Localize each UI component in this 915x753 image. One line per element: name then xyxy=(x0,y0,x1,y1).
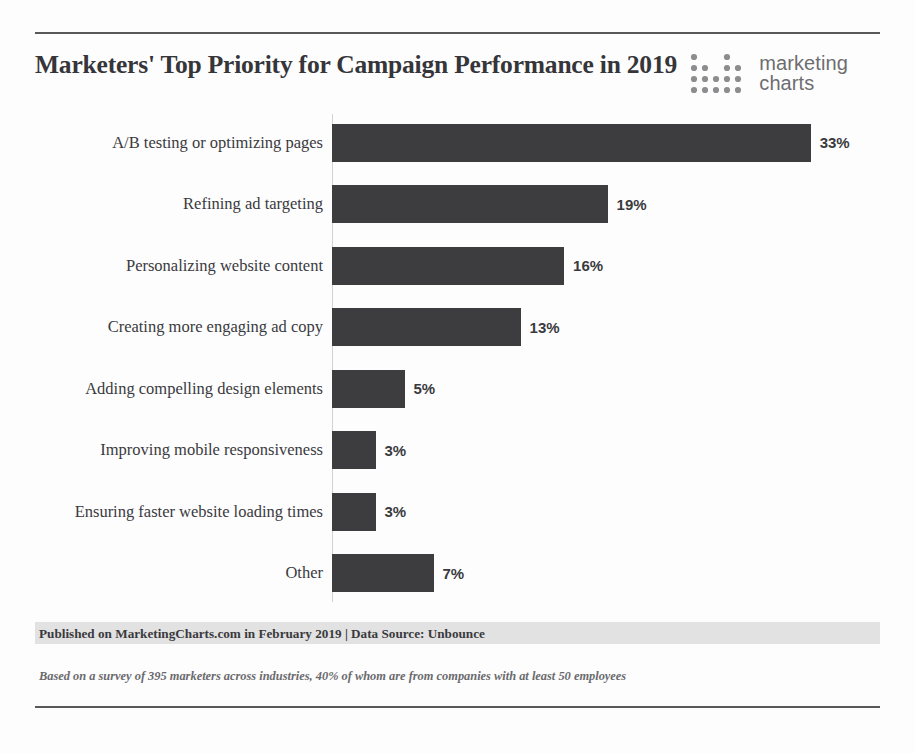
chart-row: Improving mobile responsiveness3% xyxy=(35,431,880,469)
bottom-divider xyxy=(35,706,880,708)
bar xyxy=(332,124,811,162)
category-label: Creating more engaging ad copy xyxy=(35,319,332,336)
attribution-text: Published on MarketingCharts.com in Febr… xyxy=(39,625,485,642)
bar-track: 7% xyxy=(332,554,880,592)
bar-track: 19% xyxy=(332,185,880,223)
chart-row: Other7% xyxy=(35,554,880,592)
category-label: Improving mobile responsiveness xyxy=(35,442,332,459)
bar-value-label: 5% xyxy=(405,381,436,396)
logo-line-1: marketing xyxy=(759,53,848,73)
bar-value-label: 3% xyxy=(376,443,407,458)
bar xyxy=(332,493,376,531)
bar-value-label: 3% xyxy=(376,504,407,519)
bar-track: 13% xyxy=(332,308,880,346)
bar xyxy=(332,554,434,592)
chart-row: Ensuring faster website loading times3% xyxy=(35,493,880,531)
bar-value-label: 33% xyxy=(811,135,850,150)
chart-row: Personalizing website content16% xyxy=(35,247,880,285)
bar-value-label: 7% xyxy=(434,566,465,581)
logo-line-2: charts xyxy=(759,73,848,93)
bar xyxy=(332,370,405,408)
dot-matrix-icon xyxy=(688,51,750,95)
bar xyxy=(332,431,376,469)
chart-header: Marketers' Top Priority for Campaign Per… xyxy=(35,44,880,106)
page-title: Marketers' Top Priority for Campaign Per… xyxy=(35,50,677,80)
chart-row: Refining ad targeting19% xyxy=(35,185,880,223)
chart-row: Creating more engaging ad copy13% xyxy=(35,308,880,346)
bar xyxy=(332,185,608,223)
bar-track: 33% xyxy=(332,124,880,162)
bar-track: 3% xyxy=(332,493,880,531)
category-label: Adding compelling design elements xyxy=(35,381,332,398)
top-divider xyxy=(35,32,880,34)
category-label: Refining ad targeting xyxy=(35,196,332,213)
bar-value-label: 16% xyxy=(564,258,603,273)
bar-value-label: 13% xyxy=(521,320,560,335)
category-label: Ensuring faster website loading times xyxy=(35,504,332,521)
bar-track: 5% xyxy=(332,370,880,408)
chart-row: A/B testing or optimizing pages33% xyxy=(35,124,880,162)
category-label: Personalizing website content xyxy=(35,258,332,275)
category-label: A/B testing or optimizing pages xyxy=(35,135,332,152)
logo-wordmark: marketing charts xyxy=(759,53,848,94)
bar-track: 3% xyxy=(332,431,880,469)
bar-value-label: 19% xyxy=(608,197,647,212)
marketingcharts-logo: marketing charts xyxy=(688,44,848,102)
bar-chart-plot: A/B testing or optimizing pages33%Refini… xyxy=(35,112,880,604)
chart-row: Adding compelling design elements5% xyxy=(35,370,880,408)
methodology-note: Based on a survey of 395 marketers acros… xyxy=(39,668,626,684)
bar xyxy=(332,247,564,285)
chart-figure: Marketers' Top Priority for Campaign Per… xyxy=(0,0,915,753)
category-label: Other xyxy=(35,565,332,582)
bar-track: 16% xyxy=(332,247,880,285)
bar xyxy=(332,308,521,346)
